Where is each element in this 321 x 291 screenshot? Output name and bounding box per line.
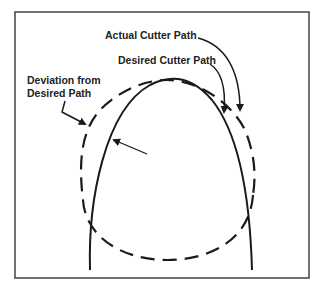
- diagram-frame: [15, 12, 309, 278]
- deviation-bracket: [62, 101, 85, 124]
- desired-cutter-path-label: Desired Cutter Path: [118, 54, 216, 67]
- actual-cutter-path-curve: [81, 80, 254, 260]
- deviation-label-line1: Deviation from: [27, 74, 101, 87]
- cutter-path-diagram: [0, 0, 321, 291]
- desired-path-arrow: [210, 64, 224, 112]
- actual-cutter-path-label: Actual Cutter Path: [105, 29, 197, 42]
- deviation-label-line2: Desired Path: [27, 87, 91, 100]
- deviation-arrow: [114, 140, 147, 154]
